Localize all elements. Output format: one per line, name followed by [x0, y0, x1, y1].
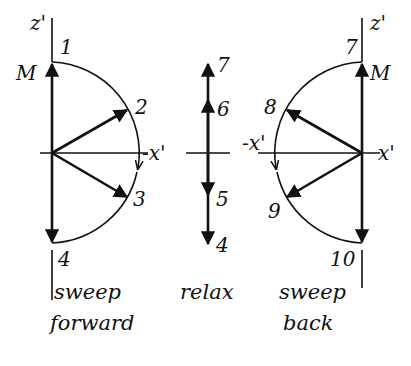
magnetization-sweep-diagram: z' M -x' 1 2 3 4 sweep forward 7 6 5 4 r…	[0, 0, 411, 366]
point-4-label: 4	[57, 247, 71, 271]
neg-x-axis-label-right: -x'	[242, 131, 266, 155]
relax-point-6-label: 6	[217, 97, 230, 121]
vector-9-icon	[287, 153, 362, 197]
relax-point-5-label: 5	[216, 187, 229, 211]
point-8-label: 8	[264, 95, 277, 119]
sweep-back-arc-lower	[277, 172, 362, 243]
point-3-label: 3	[133, 187, 146, 211]
sweep-back-arc-arrow	[275, 62, 362, 168]
x-axis-label: -x'	[142, 141, 166, 165]
caption-relax: relax	[180, 280, 234, 304]
relax-point-7-label: 7	[217, 53, 230, 77]
point-9-label: 9	[268, 199, 281, 223]
vector-2-icon	[52, 110, 127, 153]
point-10-label: 10	[330, 247, 356, 271]
vector-3-icon	[52, 153, 127, 197]
sweep-forward-panel: z' M -x' 1 2 3 4 sweep forward	[15, 11, 166, 335]
sweep-arc-arrow	[52, 62, 139, 168]
relax-point-4-label: 4	[215, 233, 229, 257]
z-axis-label: z'	[29, 11, 46, 35]
caption-sweep-forward-2: forward	[48, 311, 134, 335]
caption-sweep-back-2: back	[283, 311, 333, 335]
sweep-arc-lower	[52, 172, 137, 243]
x-axis-label-right: x'	[378, 141, 395, 165]
point-7-back-label: 7	[345, 35, 358, 59]
magnetization-label: M	[15, 61, 37, 85]
point-2-label: 2	[134, 95, 148, 119]
sweep-back-panel: z' M x' -x' 7 8 9 10 sweep back	[242, 11, 395, 335]
point-1-label: 1	[60, 35, 73, 59]
z-axis-label-right: z'	[369, 11, 386, 35]
relax-panel: 7 6 5 4 relax	[180, 53, 234, 304]
caption-sweep-back-1: sweep	[279, 280, 346, 304]
vector-8-icon	[287, 110, 362, 153]
magnetization-label-right: M	[369, 61, 391, 85]
caption-sweep-forward-1: sweep	[54, 280, 121, 304]
